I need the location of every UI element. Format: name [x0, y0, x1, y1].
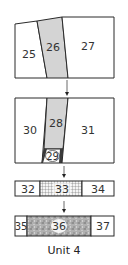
step-2-block: 30 28 29 31 — [15, 98, 114, 163]
piece-26-label: 26 — [46, 41, 60, 54]
piece-36-label: 36 — [52, 220, 66, 233]
step-3-strip: 32 33 34 — [15, 181, 114, 196]
down-arrow-icon — [65, 80, 69, 96]
piece-33-label: 33 — [55, 183, 69, 196]
down-arrow-icon — [62, 166, 66, 178]
unit-caption: Unit 4 — [0, 244, 128, 257]
quilt-unit-diagram: 25 26 27 30 28 29 31 32 33 34 — [0, 0, 128, 265]
piece-29-label: 29 — [46, 151, 59, 162]
piece-30-label: 30 — [23, 124, 37, 137]
piece-27-label: 27 — [81, 40, 95, 53]
piece-37-label: 37 — [96, 220, 110, 233]
piece-32-label: 32 — [21, 183, 35, 196]
piece-31-label: 31 — [81, 124, 95, 137]
piece-28-label: 28 — [49, 117, 63, 130]
step-1-block: 25 26 27 — [15, 17, 114, 78]
piece-35-label: 35 — [15, 221, 28, 232]
down-arrow-icon — [62, 201, 66, 213]
piece-34-label: 34 — [91, 183, 105, 196]
step-4-strip: 35 36 37 — [15, 216, 114, 236]
piece-25-label: 25 — [22, 48, 36, 61]
